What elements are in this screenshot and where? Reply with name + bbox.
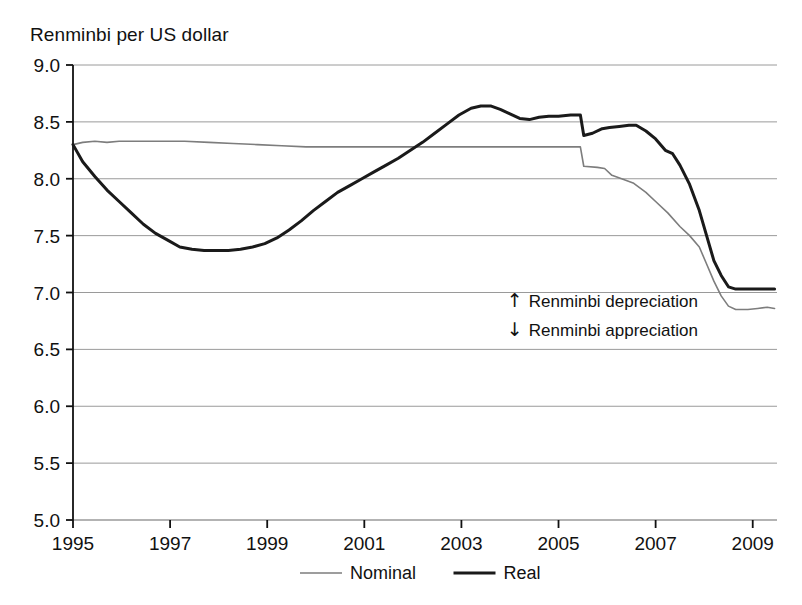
y-axis-tick-label: 6.5	[34, 339, 60, 360]
annotation-label: Renminbi appreciation	[529, 321, 698, 340]
x-axis-tick-label: 2003	[440, 533, 482, 554]
x-axis-tick-label: 1995	[52, 533, 94, 554]
y-axis-tick-label: 8.5	[34, 112, 60, 133]
x-axis-tick-label: 2005	[537, 533, 579, 554]
legend-label-nominal: Nominal	[350, 563, 416, 583]
up-arrow-icon: ↑	[507, 289, 523, 311]
y-axis-tick-label: 7.5	[34, 226, 60, 247]
x-axis-tick-label: 2007	[634, 533, 676, 554]
x-axis-tick-label: 1999	[246, 533, 288, 554]
y-axis-tick-label: 9.0	[34, 55, 60, 76]
series-line-real	[73, 106, 775, 289]
x-axis-tick-label: 1997	[149, 533, 191, 554]
x-axis-tick-label: 2001	[343, 533, 385, 554]
annotation-label: Renminbi depreciation	[529, 292, 698, 311]
y-axis-tick-label: 5.5	[34, 453, 60, 474]
series-line-nominal	[73, 141, 775, 309]
down-arrow-icon: ↓	[507, 318, 523, 340]
y-axis-tick-label: 5.0	[34, 510, 60, 531]
y-axis-tick-label: 8.0	[34, 169, 60, 190]
y-axis-tick-label: 7.0	[34, 283, 60, 304]
legend-label-real: Real	[504, 563, 541, 583]
line-chart-plot: 9.08.58.07.57.06.56.05.55.01995199719992…	[0, 0, 802, 605]
chart-container: Renminbi per US dollar 9.08.58.07.57.06.…	[0, 0, 802, 605]
y-axis-tick-label: 6.0	[34, 396, 60, 417]
x-axis-tick-label: 2009	[732, 533, 774, 554]
